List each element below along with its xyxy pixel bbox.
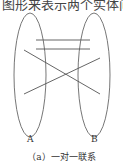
set-a-ellipse (14, 13, 46, 137)
figure-caption: （a）一对一联系 (0, 150, 123, 163)
mapping-line (24, 58, 100, 94)
set-a-label: A (27, 134, 34, 144)
mapping-line (24, 50, 100, 94)
set-b-label: B (91, 134, 98, 144)
one-to-one-diagram (0, 0, 123, 166)
set-b-ellipse (78, 13, 110, 137)
